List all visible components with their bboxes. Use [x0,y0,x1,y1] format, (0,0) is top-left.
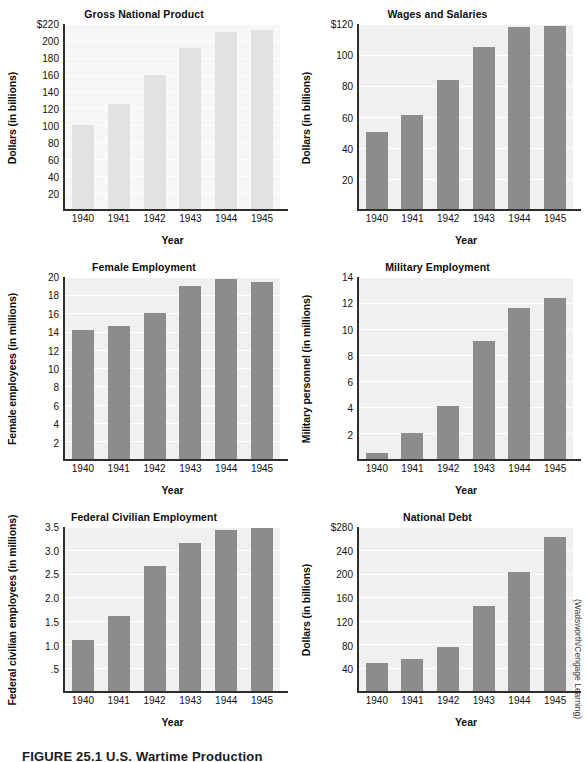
x-tick-label: 1942 [138,695,172,706]
y-tick-label: 60 [342,112,353,123]
y-tick-labels: $2802402001601208040 [312,527,356,693]
y-tick-label: 6 [347,377,353,388]
x-tick-label: 1940 [66,463,100,474]
y-tick-labels: $12010080604020 [312,24,356,211]
x-tick-labels: 194019411942194319441945 [65,213,280,229]
x-tick-label: 1941 [395,695,429,706]
chart-title: Female Employment [0,261,288,273]
plot-wrap: Dollars (in billions)$120100806040201940… [294,24,583,253]
bar-1944 [215,279,237,460]
y-tick-label: 14 [48,327,59,338]
y-tick-label: 40 [342,664,353,675]
x-tick-label: 1945 [538,695,572,706]
y-tick-label: 4 [347,403,353,414]
bar-1945 [251,30,273,210]
figure-page: Gross National ProductDollars (in billio… [0,0,587,762]
y-axis-line [63,24,65,211]
bar-1941 [401,433,423,459]
image-credit-text: (Wadsworth/Cengage Learning) [573,599,583,719]
y-tick-label: 6 [53,400,59,411]
x-tick-label: 1942 [431,695,465,706]
plot-area [359,527,573,691]
bar-1940 [366,132,388,209]
bar-1942 [437,406,459,459]
bar-1941 [108,616,130,691]
bar-1943 [473,47,495,209]
bar-1941 [401,115,423,209]
figure-caption: FIGURE 25.1 U.S. Wartime Production [22,749,263,762]
bar-1940 [72,125,94,209]
y-tick-label: $220 [37,19,59,30]
x-tick-label: 1945 [245,213,279,224]
y-tick-labels: 3.53.02.52.01.51.0.5 [18,527,62,693]
x-axis-label: Year [63,484,282,496]
chart-national-debt: National DebtDollars (in billions)$28024… [294,503,587,735]
y-tick-label: 120 [42,104,59,115]
x-tick-label: 1944 [502,463,536,474]
x-tick-labels: 194019411942194319441945 [359,213,573,229]
y-tick-label: 80 [342,640,353,651]
plot-area [359,277,573,459]
bar-1945 [544,26,566,210]
bar-1941 [108,326,130,459]
x-tick-label: 1945 [245,695,279,706]
y-tick-label: 14 [342,272,353,283]
y-axis-label-text: Dollars (in billions) [300,71,312,163]
x-tick-label: 1940 [66,695,100,706]
x-tick-label: 1944 [502,695,536,706]
chart-female-employment: Female EmploymentFemale employees (in mi… [0,253,294,503]
bar-series [65,24,280,209]
x-tick-label: 1943 [467,463,501,474]
bar-series [65,527,280,691]
bar-1944 [215,530,237,691]
y-axis-label-text: Federal civilian employees (in millions) [6,515,18,706]
chart-military-employment: Military EmploymentMilitary personnel (i… [294,253,587,503]
bar-1942 [144,75,166,209]
y-tick-label: 120 [336,616,353,627]
x-axis-label: Year [357,716,575,728]
y-tick-label: 4 [53,419,59,430]
bar-series [359,527,573,691]
x-tick-label: 1942 [431,463,465,474]
bar-1940 [72,640,94,692]
y-tick-label: 80 [342,81,353,92]
x-tick-label: 1945 [245,463,279,474]
plot-area [65,277,280,459]
y-tick-label: 3.0 [45,545,59,556]
plot-wrap: Military personnel (in millions)14121086… [294,277,583,503]
x-tick-labels: 194019411942194319441945 [65,695,280,711]
bar-series [65,277,280,459]
bar-1944 [508,572,530,691]
x-axis-label: Year [63,716,282,728]
bar-1942 [437,80,459,210]
x-tick-label: 1940 [66,213,100,224]
y-tick-label: 60 [48,155,59,166]
image-credit: (Wadsworth/Cengage Learning) [571,584,585,734]
bar-1942 [144,313,166,460]
bar-1945 [544,298,566,460]
chart-gross-national-product: Gross National ProductDollars (in billio… [0,0,294,253]
y-axis-label-text: Dollars (in billions) [6,71,18,163]
y-tick-label: $280 [331,522,353,533]
chart-grid: Gross National ProductDollars (in billio… [0,0,587,735]
bar-1941 [108,104,130,209]
y-tick-label: 2.5 [45,569,59,580]
bar-1943 [179,48,201,210]
y-tick-label: 2.0 [45,593,59,604]
plot-area [65,527,280,691]
x-tick-label: 1945 [538,213,572,224]
x-tick-label: 1940 [360,695,394,706]
y-axis-line [63,277,65,461]
y-tick-label: 12 [48,345,59,356]
x-tick-label: 1942 [138,213,172,224]
y-tick-label: 2 [53,437,59,448]
y-tick-label: 40 [48,172,59,183]
y-tick-labels: 1412108642 [312,277,356,461]
y-axis-label-text: Female employees (in millions) [6,293,18,445]
y-tick-labels: $22020018016014012010080604020 [18,24,62,211]
y-tick-label: 40 [342,143,353,154]
y-tick-label: 1.5 [45,616,59,627]
plot-wrap: Dollars (in billions)$280240200160120804… [294,527,583,735]
x-tick-label: 1944 [209,695,243,706]
y-tick-label: 140 [42,87,59,98]
